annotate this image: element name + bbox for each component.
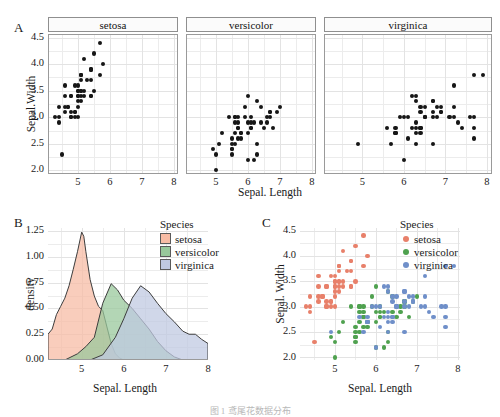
data-point <box>262 126 266 130</box>
data-point <box>382 284 386 288</box>
panel-a-xtick: 7 <box>270 176 290 187</box>
data-point <box>255 152 259 156</box>
legend-item-virginica-c[interactable]: virginica <box>400 258 458 271</box>
panel-b-ytick: 0.00 <box>12 353 44 364</box>
panel-a-plot-versicolor <box>186 34 316 174</box>
data-point <box>214 152 218 156</box>
data-point <box>407 304 411 308</box>
data-point <box>423 294 427 298</box>
data-point <box>389 142 393 146</box>
data-point <box>233 131 237 135</box>
panel-a-plot-virginica <box>324 34 492 174</box>
data-point <box>443 304 447 308</box>
gridline-minor-h <box>49 51 177 52</box>
data-point <box>82 57 86 61</box>
data-point <box>239 136 243 140</box>
data-point <box>341 320 345 324</box>
legend-label-virginica: virginica <box>175 259 214 271</box>
gridline-major-h <box>325 170 491 171</box>
data-point <box>79 73 83 77</box>
legend-label-versicolor-c: versicolor <box>414 246 458 258</box>
data-point <box>333 289 337 293</box>
gridline-minor-h <box>187 131 315 132</box>
data-point <box>353 335 357 339</box>
data-point <box>406 136 410 140</box>
data-point <box>374 310 378 314</box>
data-point <box>365 315 369 319</box>
gridline-major-h <box>49 117 177 118</box>
data-point <box>217 142 221 146</box>
gridline-major-h <box>49 144 177 145</box>
panel-c-xtick: 6 <box>366 363 386 374</box>
data-point <box>423 105 427 109</box>
data-point <box>333 274 337 278</box>
panel-c-ytick: 2.0 <box>270 351 296 362</box>
data-point <box>73 110 77 114</box>
gridline-minor-h <box>49 131 177 132</box>
panel-a-xtick: 6 <box>238 176 258 187</box>
data-point <box>386 284 390 288</box>
data-point <box>427 310 431 314</box>
gridline-major-v <box>487 35 488 173</box>
data-point <box>252 158 256 162</box>
data-point <box>431 315 435 319</box>
legend-swatch-versicolor <box>160 246 171 257</box>
data-point <box>472 115 476 119</box>
data-point <box>230 136 234 140</box>
data-point <box>337 264 341 268</box>
data-point <box>308 304 312 308</box>
data-point <box>452 83 456 87</box>
data-point <box>423 115 427 119</box>
gridline-minor-h <box>325 51 491 52</box>
data-point <box>415 294 419 298</box>
legend-item-virginica[interactable]: virginica <box>160 258 219 271</box>
data-point <box>329 335 333 339</box>
data-point <box>63 83 67 87</box>
data-point <box>374 320 378 324</box>
data-point <box>333 294 337 298</box>
data-point <box>57 120 61 124</box>
data-point <box>92 51 96 55</box>
data-point <box>390 320 394 324</box>
data-point <box>385 126 389 130</box>
panel-c-x-axis-title: Sepal. Length <box>300 382 460 394</box>
panel-c-ytick: 3.5 <box>270 274 296 285</box>
data-point <box>374 284 378 288</box>
gridline-major-v <box>445 35 446 173</box>
legend-dot-virginica <box>403 262 409 268</box>
data-point <box>236 126 240 130</box>
legend-item-versicolor-c[interactable]: versicolor <box>400 245 458 258</box>
data-point <box>230 142 234 146</box>
panel-b-y-axis-title: density <box>24 252 36 336</box>
panel-c-legend: Species setosa versicolor virginica <box>400 218 458 271</box>
data-point <box>386 340 390 344</box>
gridline-major-v <box>404 35 405 173</box>
data-point <box>243 105 247 109</box>
gridline-major-h <box>49 91 177 92</box>
gridline-minor-h <box>187 157 315 158</box>
gridline-major-v <box>174 35 175 173</box>
data-point <box>423 304 427 308</box>
data-point <box>337 284 341 288</box>
panel-c-ytick: 3.0 <box>270 300 296 311</box>
data-point <box>398 310 402 314</box>
legend-label-virginica-c: virginica <box>414 259 453 271</box>
data-point <box>98 73 102 77</box>
data-point <box>236 115 240 119</box>
legend-item-setosa-c[interactable]: setosa <box>400 232 458 245</box>
data-point <box>275 110 279 114</box>
data-point <box>402 299 406 303</box>
data-point <box>353 325 357 329</box>
panel-a-xtick: 7 <box>435 176 455 187</box>
panel-a-x-axis-title: Sepal. Length <box>45 186 495 198</box>
data-point <box>418 105 422 109</box>
gridline-major-h <box>187 91 315 92</box>
gridline-major-h <box>49 170 177 171</box>
legend-item-versicolor[interactable]: versicolor <box>160 245 219 258</box>
data-point <box>246 120 250 124</box>
legend-item-setosa[interactable]: setosa <box>160 232 219 245</box>
data-point <box>349 304 353 308</box>
panel-a-ytick: 3.5 <box>16 84 44 95</box>
data-point <box>353 279 357 283</box>
